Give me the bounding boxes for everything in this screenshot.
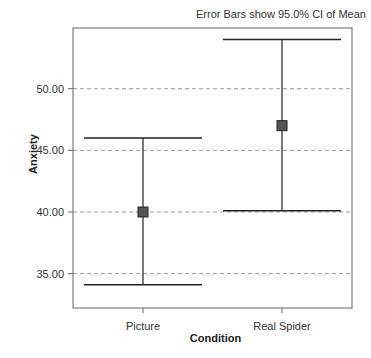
x-tick-label: Picture [126, 320, 160, 332]
y-tick-label: 40.00 [36, 206, 64, 218]
y-tick-label: 50.00 [36, 83, 64, 95]
mean-marker [277, 121, 287, 131]
error-bar-chart: 35.0040.0045.0050.00PictureReal Spider [0, 0, 371, 358]
y-tick-label: 45.00 [36, 144, 64, 156]
plot-frame [73, 28, 352, 308]
mean-marker [138, 207, 148, 217]
x-tick-label: Real Spider [253, 320, 311, 332]
y-tick-label: 35.00 [36, 268, 64, 280]
